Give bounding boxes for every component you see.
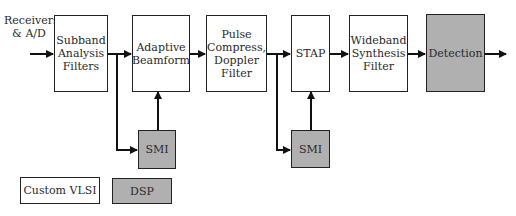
block-pulse-compress-doppler: Pulse Compress, Doppler Filter bbox=[206, 15, 267, 92]
block-stap: STAP bbox=[291, 15, 330, 92]
block-label: SMI bbox=[299, 143, 322, 156]
legend-custom-vlsi: Custom VLSI bbox=[20, 177, 100, 204]
block-wideband-synthesis-filter: Wideband Synthesis Filter bbox=[349, 15, 408, 92]
block-label: Adaptive Beamform bbox=[132, 41, 190, 67]
block-subband-analysis-filters: Subband Analysis Filters bbox=[54, 15, 108, 92]
block-smi-2: SMI bbox=[291, 130, 330, 168]
legend-dsp: DSP bbox=[112, 178, 172, 204]
block-label: Subband Analysis Filters bbox=[56, 34, 105, 73]
block-detection: Detection bbox=[426, 14, 485, 92]
block-label: Detection bbox=[428, 47, 482, 60]
block-label: SMI bbox=[145, 143, 168, 156]
legend-label: DSP bbox=[130, 185, 154, 198]
block-label: STAP bbox=[296, 47, 326, 60]
arrow-pulse-to-smi2 bbox=[277, 54, 290, 150]
block-adaptive-beamform: Adaptive Beamform bbox=[132, 15, 190, 92]
block-smi-1: SMI bbox=[138, 130, 176, 169]
input-label: Receivers & A/D bbox=[4, 14, 54, 40]
block-label: Wideband Synthesis Filter bbox=[351, 34, 407, 73]
legend-label: Custom VLSI bbox=[23, 184, 96, 197]
block-label: Pulse Compress, Doppler Filter bbox=[207, 28, 266, 80]
